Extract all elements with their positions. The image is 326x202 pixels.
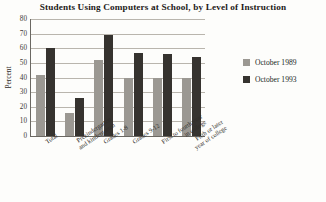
bar-group [36, 19, 55, 136]
bar [46, 48, 55, 136]
legend: October 1989October 1993 [243, 58, 297, 92]
y-axis-tick-label: 20 [20, 103, 27, 111]
gridline [30, 78, 205, 79]
legend-item[interactable]: October 1993 [243, 75, 297, 84]
bar-group [153, 19, 172, 136]
y-axis-label-text: Percent [4, 66, 13, 88]
gridline [30, 34, 205, 35]
bar [36, 75, 45, 136]
y-axis-tick-label: 50 [20, 59, 27, 67]
y-axis-tick-label: 0 [23, 132, 27, 140]
bar [134, 53, 143, 136]
bar-group [124, 19, 143, 136]
legend-swatch [243, 76, 250, 83]
plot-area [30, 19, 205, 136]
legend-label: October 1993 [255, 75, 297, 84]
y-axis-tick-label: 80 [20, 15, 27, 23]
legend-item[interactable]: October 1989 [243, 58, 297, 67]
y-axis-tick-label: 30 [20, 88, 27, 96]
y-axis-line [30, 19, 31, 137]
legend-label: October 1989 [255, 58, 297, 67]
gridline [30, 121, 205, 122]
bar [75, 98, 84, 136]
chart-title: Students Using Computers at School, by L… [0, 2, 326, 12]
y-axis-tick-label: 70 [20, 29, 27, 37]
y-axis-label: Percent [2, 19, 14, 136]
gridline [30, 63, 205, 64]
legend-swatch [243, 59, 250, 66]
y-axis-tick-label: 10 [20, 117, 27, 125]
y-axis-tick-label: 40 [20, 73, 27, 81]
gridline [30, 48, 205, 49]
bar-group [65, 19, 84, 136]
gridline [30, 19, 205, 20]
gridline [30, 92, 205, 93]
y-axis-tick-label: 60 [20, 44, 27, 52]
bar [163, 54, 172, 136]
bar-chart: Students Using Computers at School, by L… [0, 0, 326, 202]
bar [65, 113, 74, 136]
gridline [30, 107, 205, 108]
